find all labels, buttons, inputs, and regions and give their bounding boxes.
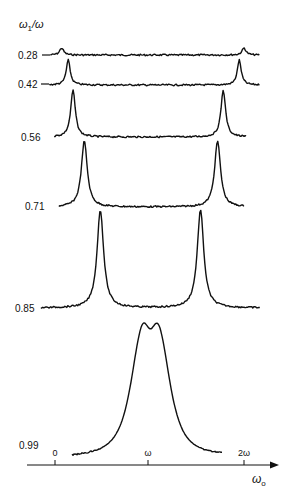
- spectrum-trace-0.99: [72, 323, 222, 455]
- spectrum-trace-0.85: [41, 210, 260, 308]
- trace-label-leaders: [41, 55, 50, 84]
- spectrum-trace-0.42: [49, 59, 259, 85]
- x-axis: [27, 460, 279, 469]
- arrow-right-icon: [270, 462, 279, 469]
- stacked-spectra-chart: ω1/ω 0.28 0.42 0.56 0.71 0.85 0.99 0 ω 2…: [0, 0, 295, 496]
- spectrum-trace-0.71: [59, 141, 244, 207]
- plot-area: [0, 0, 295, 496]
- spectrum-trace-0.56: [54, 90, 246, 138]
- spectrum-trace-0.28: [50, 48, 259, 56]
